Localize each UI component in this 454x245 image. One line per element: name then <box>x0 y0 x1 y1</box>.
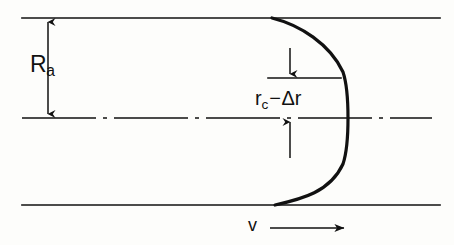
label-outer-radius-symbol: R <box>30 51 46 77</box>
label-outer-radius: Ra <box>30 53 55 79</box>
velocity-profile-figure: Ra rc−Δr v <box>0 0 454 245</box>
label-outer-radius-subscript: a <box>46 62 55 79</box>
label-core-radius-variable: r <box>295 87 301 109</box>
label-core-radius: rc−Δr <box>255 88 301 111</box>
label-core-radius-operator: − <box>268 87 281 109</box>
label-core-radius-delta: Δ <box>282 87 295 109</box>
figure-canvas <box>0 0 454 245</box>
label-velocity: v <box>248 216 257 234</box>
velocity-profile-curve <box>272 18 348 205</box>
